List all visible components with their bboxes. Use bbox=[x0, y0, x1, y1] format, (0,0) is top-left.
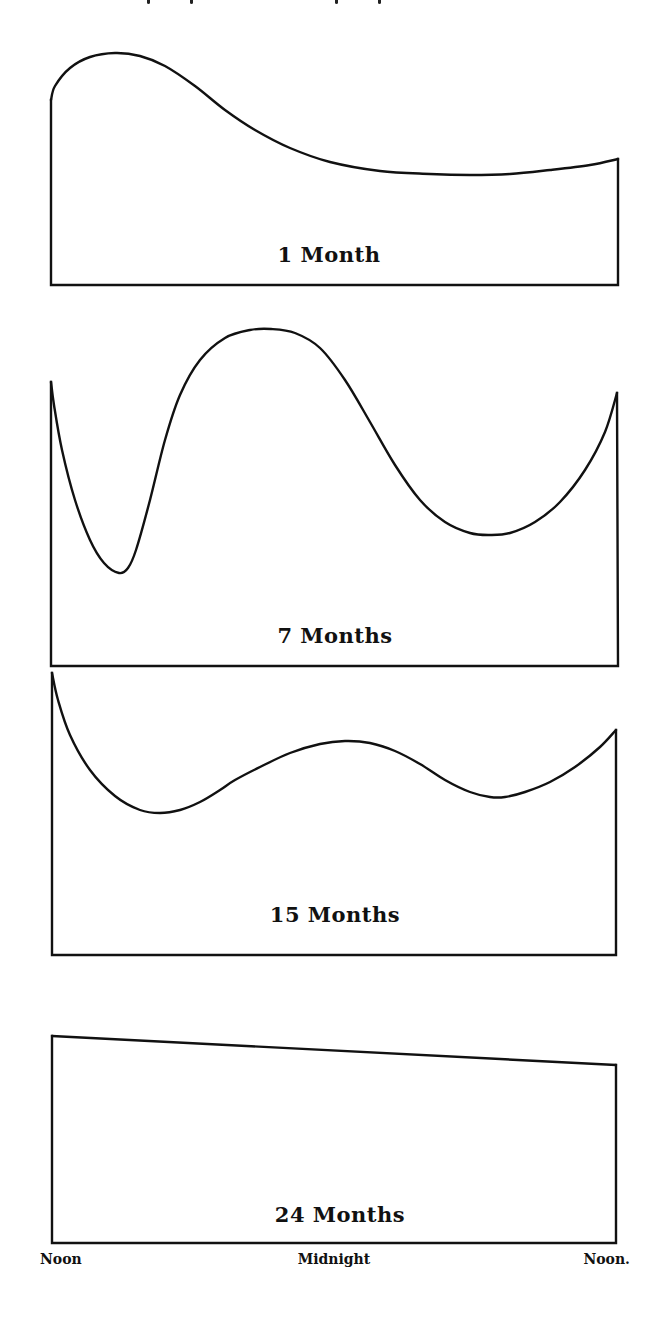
x-axis-labels: Noon Midnight Noon. bbox=[40, 1251, 630, 1267]
panel-1-month: 1 Month bbox=[51, 53, 618, 285]
panel-label: 1 Month bbox=[278, 242, 381, 267]
panel-label: 24 Months bbox=[275, 1202, 405, 1227]
activity-curve bbox=[52, 673, 616, 813]
panel-label: 7 Months bbox=[277, 623, 392, 648]
x-label-noon-end: Noon. bbox=[583, 1251, 630, 1267]
activity-curve bbox=[52, 1036, 616, 1065]
activity-curve bbox=[51, 53, 618, 175]
x-label-noon-start: Noon bbox=[40, 1251, 82, 1267]
x-label-midnight: Midnight bbox=[298, 1251, 371, 1267]
panel-7-months: 7 Months bbox=[51, 329, 618, 666]
sleep-pattern-figure: 1 Month 7 Months 15 Months 24 Months Noo… bbox=[0, 0, 660, 1332]
activity-curve bbox=[51, 329, 617, 573]
panel-15-months: 15 Months bbox=[52, 673, 616, 955]
panel-label: 15 Months bbox=[270, 902, 400, 927]
panel-24-months: 24 Months bbox=[52, 1036, 616, 1243]
